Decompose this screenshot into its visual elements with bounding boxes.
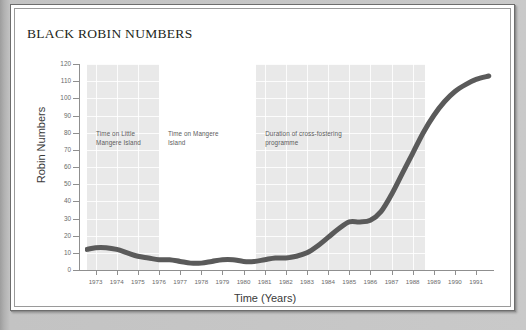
y-tick-label: 110 — [45, 77, 71, 84]
x-tick — [349, 270, 350, 275]
y-tick-label: 50 — [45, 180, 71, 187]
x-tick — [476, 270, 477, 275]
robin-numbers-line — [85, 64, 493, 270]
band-label-1: Time on Mangere Island — [168, 129, 253, 147]
y-tick-label: 20 — [45, 232, 71, 239]
y-tick-label: 0 — [45, 266, 71, 273]
x-tick — [265, 270, 266, 275]
x-tick — [180, 270, 181, 275]
x-axis-title: Time (Years) — [23, 292, 507, 304]
x-tick — [434, 270, 435, 275]
y-tick-label: 40 — [45, 197, 71, 204]
x-tick — [328, 270, 329, 275]
y-tick-label: 100 — [45, 94, 71, 101]
x-tick — [138, 270, 139, 275]
x-tick — [455, 270, 456, 275]
y-tick-label: 60 — [45, 163, 71, 170]
x-tick — [96, 270, 97, 275]
y-tick-label: 120 — [45, 60, 71, 67]
x-tick-label: 1991 — [461, 278, 491, 285]
x-tick — [222, 270, 223, 275]
y-tick-label: 70 — [45, 146, 71, 153]
page-title: BLACK ROBIN NUMBERS — [27, 26, 192, 42]
y-tick-label: 30 — [45, 215, 71, 222]
document-sheet-inner-border: BLACK ROBIN NUMBERS Robin Numbers Time (… — [14, 8, 511, 307]
y-tick-label: 80 — [45, 129, 71, 136]
y-tick-label: 10 — [45, 249, 71, 256]
band-label-0: Time on Little Mangere Island — [96, 129, 156, 147]
document-sheet: BLACK ROBIN NUMBERS Robin Numbers Time (… — [10, 4, 515, 311]
band-label-2: Duration of cross-fostering programme — [265, 129, 422, 147]
x-tick — [159, 270, 160, 275]
plot-area: Time on Little Mangere IslandTime on Man… — [85, 64, 493, 270]
x-tick — [117, 270, 118, 275]
x-tick — [201, 270, 202, 275]
black-robin-numbers-chart: Robin Numbers Time (Years) 0102030405060… — [23, 49, 507, 307]
y-tick-label: 90 — [45, 112, 71, 119]
x-tick — [370, 270, 371, 275]
x-tick — [413, 270, 414, 275]
x-tick — [286, 270, 287, 275]
x-tick — [244, 270, 245, 275]
x-tick — [307, 270, 308, 275]
y-axis-line — [79, 64, 80, 270]
x-tick — [392, 270, 393, 275]
